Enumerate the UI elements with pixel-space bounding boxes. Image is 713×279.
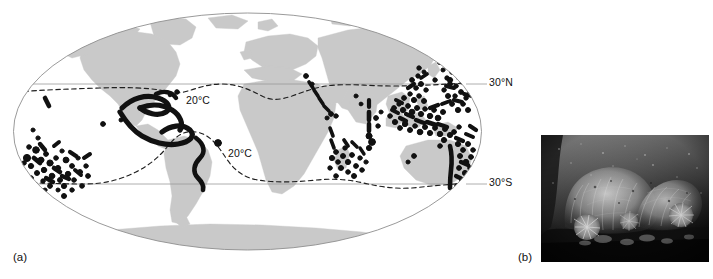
land-northeast-asia bbox=[432, 26, 462, 48]
reef-dot bbox=[475, 197, 480, 202]
reef-dot bbox=[412, 154, 417, 159]
map-canvas bbox=[0, 0, 530, 279]
reef-dot bbox=[354, 94, 358, 98]
world-distribution-map: 30°N 30°S 20°C 20°C bbox=[0, 0, 530, 279]
panel-caption-a: (a) bbox=[13, 252, 27, 264]
isotherm-label-north: 20°C bbox=[186, 95, 210, 106]
reef-dot bbox=[101, 122, 106, 127]
photo-canvas bbox=[541, 135, 709, 262]
reef-cluster-great-barrier bbox=[450, 146, 452, 188]
land-siberia-islands-2 bbox=[376, 18, 404, 29]
reef-dot bbox=[119, 118, 123, 122]
reef-dot bbox=[433, 78, 437, 82]
panel-caption-b: (b) bbox=[518, 252, 532, 264]
reef-dot bbox=[406, 160, 410, 164]
reef-dot bbox=[175, 90, 180, 95]
reef-dot bbox=[168, 93, 172, 97]
reef-dot bbox=[441, 137, 446, 142]
isotherm-label-south: 20°C bbox=[228, 148, 252, 159]
latitude-label-30s: 30°S bbox=[489, 177, 512, 188]
figure-root: 30°N 30°S 20°C 20°C bbox=[0, 0, 713, 279]
latitude-label-30n: 30°N bbox=[489, 77, 513, 88]
reef-dot bbox=[215, 140, 222, 147]
reef-dot bbox=[438, 144, 443, 149]
photo-vignette bbox=[541, 135, 709, 262]
coral-reef-photograph bbox=[541, 135, 709, 262]
reef-dot bbox=[359, 102, 363, 106]
reef-dot bbox=[447, 77, 452, 82]
